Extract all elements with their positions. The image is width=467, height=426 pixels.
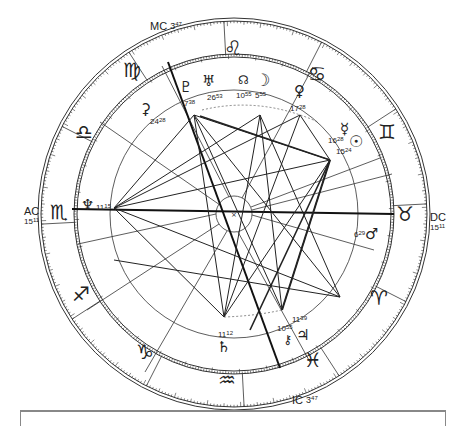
mercury-min: 28 xyxy=(337,136,344,142)
scorpio-icon: ♏ xyxy=(50,202,68,222)
moon-degree: 555 xyxy=(255,92,266,100)
venus-deg: 17 xyxy=(290,104,299,113)
moon-icon: ☽ xyxy=(255,72,270,89)
uranus-min: 53 xyxy=(216,93,223,99)
neptune-icon: ♆ xyxy=(81,198,94,213)
neptune-min: 15 xyxy=(104,203,111,209)
ic-text: IC xyxy=(292,394,303,406)
mars-degree: 629 xyxy=(354,231,365,239)
saturn-icon: ♄ xyxy=(217,340,230,355)
ac-min: 11 xyxy=(33,217,39,223)
mercury-icon: ☿ xyxy=(340,122,349,137)
sagittarius-icon: ♐ xyxy=(72,284,90,304)
chiron-degree: 1055 xyxy=(277,325,293,333)
cancer-icon: ♋ xyxy=(308,64,326,84)
ceres-degree: 2428 xyxy=(150,118,166,126)
venus-icon: ♀ xyxy=(294,84,305,99)
aquarius-icon: ♒ xyxy=(218,370,236,390)
saturn-degree: 1112 xyxy=(218,331,233,339)
mc-min: 47 xyxy=(175,21,182,27)
ceres-deg: 24 xyxy=(150,117,159,126)
dc-min: 11 xyxy=(439,223,445,229)
jupiter-degree: 1139 xyxy=(292,316,307,324)
capricorn-icon: ♑ xyxy=(136,342,154,362)
dc-deg: 15 xyxy=(430,223,439,232)
ic-min: 47 xyxy=(311,395,318,401)
libra-icon: ♎ xyxy=(75,122,93,142)
leo-icon: ♌ xyxy=(224,38,242,58)
mc-text: MC xyxy=(150,20,167,32)
node-icon: ☊ xyxy=(238,74,249,86)
ac-text: AC xyxy=(24,206,39,216)
uranus-icon: ♅ xyxy=(202,74,215,89)
taurus-icon: ♉ xyxy=(396,204,414,224)
dc-text: DC xyxy=(430,212,446,222)
mercury-degree: 1628 xyxy=(328,137,344,145)
ac-deg: 15 xyxy=(24,217,33,226)
venus-min: 28 xyxy=(299,104,306,110)
mc-label: MC 347 xyxy=(150,21,182,31)
jupiter-icon: ♃ xyxy=(296,328,309,343)
footer-panel xyxy=(20,410,446,426)
uranus-degree: 2653 xyxy=(207,94,223,102)
node-min: 55 xyxy=(245,91,252,97)
gemini-icon: ♊ xyxy=(378,122,396,142)
moon-min: 55 xyxy=(259,91,266,97)
node-degree: 1055 xyxy=(236,92,252,100)
pluto-icon: ♇ xyxy=(179,80,192,95)
chiron-icon: ⚷ xyxy=(283,333,293,346)
node-deg: 10 xyxy=(236,91,245,100)
sun-min: 24 xyxy=(345,147,352,153)
ceres-icon: ⚳ xyxy=(140,102,151,117)
sun-deg: 15 xyxy=(336,147,345,156)
aries-icon: ♈ xyxy=(370,288,388,308)
virgo-icon: ♍ xyxy=(123,60,141,80)
ceres-min: 28 xyxy=(159,117,166,123)
ic-label: IC 347 xyxy=(292,395,318,405)
ac-label: AC 1511 xyxy=(24,206,39,227)
chiron-deg: 10 xyxy=(277,324,286,333)
mars-icon: ♂ xyxy=(365,227,378,242)
uranus-deg: 26 xyxy=(207,93,216,102)
pisces-icon: ♓ xyxy=(304,350,322,370)
neptune-degree: 1115 xyxy=(96,204,111,212)
center-marker: × xyxy=(231,211,237,219)
jupiter-min: 39 xyxy=(300,315,307,321)
mars-min: 29 xyxy=(358,230,365,236)
chiron-min: 55 xyxy=(286,324,293,330)
venus-degree: 1728 xyxy=(290,105,306,113)
pluto-degree: 738 xyxy=(184,100,195,108)
dc-label: DC 1511 xyxy=(430,212,446,233)
saturn-min: 12 xyxy=(226,330,233,336)
mercury-deg: 16 xyxy=(328,136,337,145)
sun-degree: 1524 xyxy=(336,148,352,156)
pluto-min: 38 xyxy=(188,99,195,105)
